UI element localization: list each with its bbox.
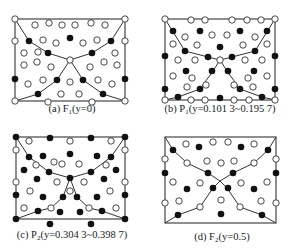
open-atom-icon xyxy=(273,200,279,206)
open-atom-icon xyxy=(21,50,27,56)
open-atom-icon xyxy=(175,57,181,63)
caption-c-prefix: (c) xyxy=(17,229,31,240)
open-atom-icon xyxy=(209,32,215,38)
open-atom-icon xyxy=(231,82,237,88)
filled-atom-icon xyxy=(237,86,244,93)
filled-atom-icon xyxy=(183,68,190,75)
open-atom-icon xyxy=(272,16,278,22)
open-atom-icon xyxy=(217,57,223,63)
filled-atom-icon xyxy=(175,94,182,101)
panel-d xyxy=(162,137,280,223)
open-atom-icon xyxy=(204,158,210,164)
filled-atom-icon xyxy=(162,53,169,60)
filled-atom-icon xyxy=(40,153,47,160)
open-atom-icon xyxy=(21,205,27,211)
open-atom-icon xyxy=(183,141,189,147)
open-atom-icon xyxy=(67,57,73,63)
filled-atom-icon xyxy=(251,68,258,75)
open-atom-icon xyxy=(122,147,128,153)
filled-atom-icon xyxy=(108,38,115,45)
open-atom-icon xyxy=(13,147,19,153)
filled-atom-icon xyxy=(47,135,54,142)
open-atom-icon xyxy=(229,17,235,23)
panel-a xyxy=(12,16,129,105)
filled-atom-icon xyxy=(162,86,169,93)
filled-atom-icon xyxy=(26,38,33,45)
filled-atom-icon xyxy=(251,186,258,193)
open-atom-icon xyxy=(122,179,128,185)
open-atom-icon xyxy=(34,59,40,65)
open-atom-icon xyxy=(59,161,65,167)
open-atom-icon xyxy=(59,22,65,28)
open-atom-icon xyxy=(81,179,87,185)
filled-atom-icon xyxy=(272,86,279,93)
open-atom-icon xyxy=(259,57,265,63)
filled-atom-icon xyxy=(264,28,271,35)
panel-b xyxy=(162,16,279,103)
open-atom-icon xyxy=(33,162,39,168)
filled-atom-icon xyxy=(35,208,42,215)
caption-b: (b) P1(y=0.101 3~0.195 7) xyxy=(164,103,275,118)
filled-atom-icon xyxy=(122,134,129,141)
filled-atom-icon xyxy=(12,76,19,83)
filled-atom-icon xyxy=(74,194,81,201)
filled-atom-icon xyxy=(196,144,203,151)
open-atom-icon xyxy=(48,205,54,211)
open-atom-icon xyxy=(94,37,100,43)
open-atom-icon xyxy=(35,49,41,55)
open-atom-icon xyxy=(122,16,128,22)
open-atom-icon xyxy=(210,139,216,145)
filled-atom-icon xyxy=(67,151,74,158)
open-atom-icon xyxy=(251,160,257,166)
open-atom-icon xyxy=(250,84,256,90)
open-atom-icon xyxy=(95,77,101,83)
panel-c xyxy=(13,134,129,228)
open-atom-icon xyxy=(76,161,82,167)
filled-atom-icon xyxy=(230,170,237,177)
open-atom-icon xyxy=(109,81,115,87)
open-atom-icon xyxy=(194,42,200,48)
open-atom-icon xyxy=(12,98,18,104)
open-atom-icon xyxy=(242,57,248,63)
filled-atom-icon xyxy=(40,194,47,201)
open-atom-icon xyxy=(13,179,19,185)
open-atom-icon xyxy=(184,84,190,90)
filled-atom-icon xyxy=(205,170,212,177)
filled-atom-icon xyxy=(237,28,244,35)
filled-atom-icon xyxy=(88,169,95,176)
filled-atom-icon xyxy=(175,212,182,219)
open-atom-icon xyxy=(113,205,119,211)
open-atom-icon xyxy=(108,138,114,144)
filled-atom-icon xyxy=(197,28,204,35)
filled-atom-icon xyxy=(88,221,95,228)
open-atom-icon xyxy=(218,160,224,166)
open-atom-icon xyxy=(264,41,270,47)
open-atom-icon xyxy=(218,197,224,203)
caption-a-param: (y=0) xyxy=(72,103,95,114)
open-atom-icon xyxy=(67,79,73,85)
open-atom-icon xyxy=(67,138,73,144)
open-atom-icon xyxy=(51,159,57,165)
filled-atom-icon xyxy=(197,86,204,93)
filled-atom-icon xyxy=(54,77,61,84)
open-atom-icon xyxy=(176,198,182,204)
open-atom-icon xyxy=(101,59,107,65)
filled-atom-icon xyxy=(205,54,212,61)
filled-atom-icon xyxy=(35,91,42,98)
filled-atom-icon xyxy=(225,68,232,75)
open-atom-icon xyxy=(162,156,168,162)
open-atom-icon xyxy=(238,180,244,186)
filled-atom-icon xyxy=(209,68,216,75)
open-atom-icon xyxy=(192,57,198,63)
filled-atom-icon xyxy=(272,53,279,60)
open-atom-icon xyxy=(202,17,208,23)
open-atom-icon xyxy=(251,141,257,147)
open-atom-icon xyxy=(40,77,46,83)
filled-atom-icon xyxy=(122,192,129,199)
caption-d-prefix: (d) xyxy=(194,231,209,242)
open-atom-icon xyxy=(80,40,86,46)
open-atom-icon xyxy=(197,180,203,186)
figure-canvas xyxy=(0,0,291,249)
filled-atom-icon xyxy=(252,48,259,55)
open-atom-icon xyxy=(27,188,33,194)
